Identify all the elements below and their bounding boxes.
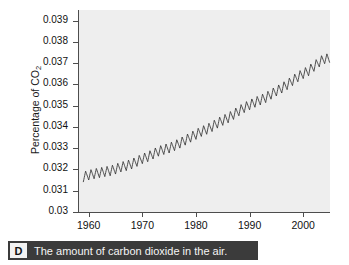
caption-label-badge: D — [10, 243, 27, 258]
co2-trend-line — [83, 54, 329, 182]
caption-text: The amount of carbon dioxide in the air. — [34, 245, 227, 257]
figure-container: Percentage of CO2 0.030.0310.0320.0330.0… — [0, 0, 349, 236]
figure-caption-bar: D The amount of carbon dioxide in the ai… — [8, 241, 258, 260]
data-curve-svg — [0, 0, 349, 236]
